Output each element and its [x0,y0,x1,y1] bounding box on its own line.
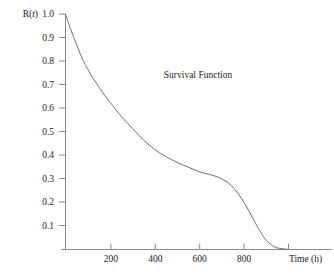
y-tick-label-0_4: 0.4 [42,150,54,160]
y-tick-label-0_6: 0.6 [42,103,54,113]
y-tick-label-0_2: 0.2 [42,197,54,207]
chart-title: Survival Function [164,70,233,80]
x-tick-label-600: 600 [193,254,208,264]
survival-function-chart: 1.0 0.9 0.8 0.7 0.6 0.5 0.4 0.3 0.2 0.1 … [0,0,334,279]
x-tick-label-800: 800 [237,254,252,264]
x-axis-ticks [66,244,289,250]
y-axis-title-symbol: R( [23,9,33,20]
y-tick-label-0_8: 0.8 [42,56,54,66]
x-tick-label-400: 400 [148,254,163,264]
y-tick-label-0_9: 0.9 [42,33,54,43]
y-tick-label-0_5: 0.5 [42,127,54,137]
y-axis-title: R(t) [23,9,38,20]
chart-canvas: 1.0 0.9 0.8 0.7 0.6 0.5 0.4 0.3 0.2 0.1 … [0,0,334,279]
y-tick-label-0_3: 0.3 [42,174,54,184]
y-tick-label-0_7: 0.7 [42,80,54,90]
x-axis-title: Time (h) [289,254,322,265]
survival-curve [66,14,289,250]
y-axis-ticks [59,14,66,226]
y-axis-title-close: ) [35,9,38,20]
y-tick-label-1_0: 1.0 [42,9,54,19]
y-tick-label-0_1: 0.1 [42,221,54,231]
x-tick-label-200: 200 [104,254,119,264]
